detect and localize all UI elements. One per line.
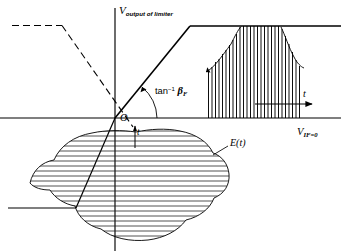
origin-label: O <box>120 113 128 124</box>
vertical-axis-title-main: V <box>119 4 126 16</box>
pulse-envelope-rise <box>206 27 241 73</box>
slope-angle-exponent: −1 <box>168 86 175 92</box>
envelope-time-axis-label: t <box>137 128 140 138</box>
right-time-axis-label: t <box>303 89 306 99</box>
slope-angle-variable-sub: F <box>183 90 187 97</box>
slope-angle-fn: tan <box>155 85 168 96</box>
right-axis-label: VIF=0 <box>297 127 317 138</box>
linear-region-segment <box>115 26 190 118</box>
envelope-hatching <box>20 131 240 236</box>
vertical-axis-title-sub: output of limiter <box>126 10 173 17</box>
input-envelope-blob <box>20 129 240 240</box>
figure-canvas <box>0 0 341 251</box>
right-axis-label-sub: IF=0 <box>303 131 317 138</box>
envelope-signal-label-arg: (t) <box>236 137 245 148</box>
vertical-axis-title: Voutput of limiter <box>119 5 173 16</box>
linear-region-lower-segment <box>76 118 115 208</box>
slope-angle-label: tan−1 βF <box>155 86 187 97</box>
envelope-signal-label: E(t) <box>230 138 246 148</box>
envelope-label-leader <box>213 146 228 155</box>
limiter-transfer-characteristic-figure: Voutput of limiter tan−1 βF O t t VIF=0 … <box>0 0 341 251</box>
